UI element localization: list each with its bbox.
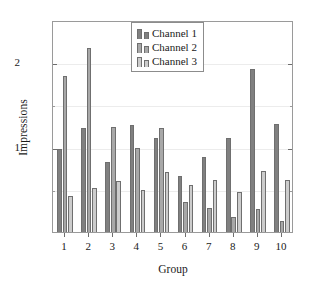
y-tick-minor-right xyxy=(290,106,292,107)
bar xyxy=(237,192,242,232)
legend-item[interactable]: Channel 1 xyxy=(136,26,197,40)
bar xyxy=(280,221,285,232)
y-tick-minor xyxy=(53,191,55,192)
bar xyxy=(63,76,68,232)
y-tick-major-right xyxy=(288,64,292,65)
y-tick-label: 1 xyxy=(0,142,20,153)
bar xyxy=(213,180,218,232)
bar xyxy=(92,188,97,232)
legend-label: Channel 1 xyxy=(152,27,197,40)
chart-legend: Channel 1Channel 2Channel 3 xyxy=(131,22,204,72)
bar xyxy=(183,202,188,232)
bar xyxy=(274,124,279,232)
bar-chart-figure: Impressions 12 12345678910 Group Channel… xyxy=(0,0,315,289)
y-axis-title: Impressions xyxy=(14,21,32,234)
legend-swatch-icon xyxy=(136,56,150,67)
bar xyxy=(285,180,290,232)
bar xyxy=(141,190,146,232)
bar xyxy=(105,162,110,232)
bar xyxy=(81,128,86,232)
bar xyxy=(159,128,164,232)
bar xyxy=(57,149,62,232)
x-tick xyxy=(233,233,234,237)
x-tick xyxy=(88,233,89,237)
y-tick-major-right xyxy=(288,149,292,150)
legend-label: Channel 2 xyxy=(152,41,197,54)
bar xyxy=(111,127,116,232)
legend-swatch-icon xyxy=(136,28,150,39)
bar xyxy=(202,157,207,232)
x-tick xyxy=(136,233,137,237)
x-axis-title: Group xyxy=(52,262,294,276)
x-tick xyxy=(209,233,210,237)
bar xyxy=(261,171,266,232)
bar xyxy=(165,172,170,232)
bar xyxy=(226,138,231,232)
bar xyxy=(135,148,140,232)
bar xyxy=(256,209,261,232)
legend-item[interactable]: Channel 3 xyxy=(136,54,197,68)
bar xyxy=(178,176,183,232)
bar xyxy=(116,181,121,232)
x-tick xyxy=(281,233,282,237)
x-tick xyxy=(64,233,65,237)
x-tick xyxy=(112,233,113,237)
y-tick-minor xyxy=(53,106,55,107)
x-tick xyxy=(185,233,186,237)
y-tick-minor-right xyxy=(290,191,292,192)
y-tick-major xyxy=(53,64,57,65)
x-tick-label: 10 xyxy=(266,240,296,252)
legend-label: Channel 3 xyxy=(152,55,197,68)
x-tick xyxy=(257,233,258,237)
bar xyxy=(207,208,212,232)
bar xyxy=(130,125,135,232)
y-tick-label: 2 xyxy=(0,57,20,68)
bar xyxy=(68,196,73,232)
bar xyxy=(87,48,92,232)
bar xyxy=(154,138,159,232)
bar xyxy=(250,69,255,232)
legend-item[interactable]: Channel 2 xyxy=(136,40,197,54)
legend-swatch-icon xyxy=(136,42,150,53)
x-tick xyxy=(160,233,161,237)
bar xyxy=(231,217,236,232)
bar xyxy=(189,185,194,232)
